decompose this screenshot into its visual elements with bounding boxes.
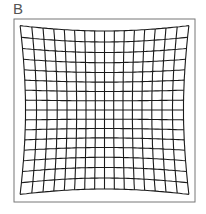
distorted-grid-lines bbox=[20, 26, 189, 195]
grid-line-vertical bbox=[184, 26, 189, 195]
pincushion-grid-diagram bbox=[0, 0, 206, 214]
grid-line-vertical bbox=[20, 26, 25, 195]
panel-label: B bbox=[13, 0, 23, 17]
distortion-figure: B bbox=[0, 0, 206, 214]
grid-line-horizontal bbox=[20, 189, 189, 194]
grid-line-horizontal bbox=[20, 26, 189, 31]
